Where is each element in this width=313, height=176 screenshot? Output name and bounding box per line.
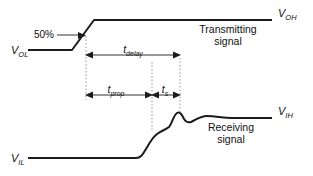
v-ih-label: VIH xyxy=(278,105,293,120)
v-ih-subscript: IH xyxy=(285,111,293,120)
t-s-subscript: s xyxy=(165,90,169,97)
v-il-subscript: IL xyxy=(18,158,24,167)
t-delay-subscript: delay xyxy=(126,50,143,58)
receiving-signal-label-line2: signal xyxy=(217,133,244,145)
t-delay-arrowhead-right xyxy=(173,52,181,59)
v-oh-subscript: OH xyxy=(285,13,297,22)
v-ol-subscript: OL xyxy=(18,50,28,59)
transmitting-signal-label-line1: Transmitting xyxy=(199,23,257,35)
receiving-signal-label-line1: Receiving xyxy=(208,121,254,133)
t-s-label: ts xyxy=(162,83,169,97)
t-prop-subscript: prop xyxy=(109,90,124,98)
transmitting-signal-label-line2: signal xyxy=(214,35,241,47)
v-oh-label: VOH xyxy=(278,7,297,22)
t-delay-label: tdelay xyxy=(123,43,143,58)
percent-marker-label: 50% xyxy=(34,29,54,40)
v-il-label: VIL xyxy=(11,152,25,167)
v-ol-label: VOL xyxy=(11,44,28,59)
timing-diagram: VOL VOH VIL VIH 50% tdelay tprop ts Tran… xyxy=(0,0,313,176)
signal-waveform-svg: VOL VOH VIL VIH 50% tdelay tprop ts Tran… xyxy=(0,0,313,176)
t-prop-label: tprop xyxy=(108,83,125,98)
